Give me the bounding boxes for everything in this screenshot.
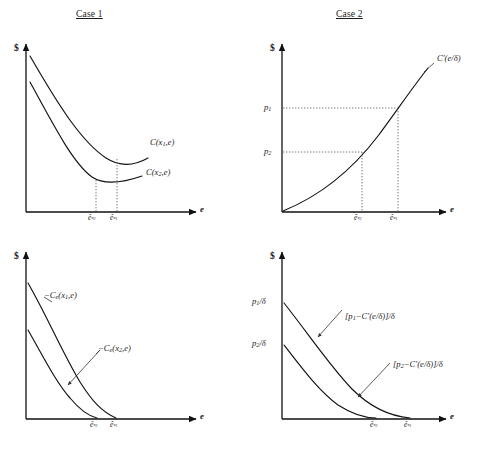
bottom-left-curve-neg-ce-x2	[28, 330, 97, 418]
top-left-y-axis-label: $	[14, 44, 19, 54]
bottom-left-y-axis-label: $	[14, 252, 19, 262]
top-right-value-p1: p1	[264, 103, 271, 113]
top-left-tick-x2: êx2	[88, 214, 96, 222]
bottom-right-y-axis-label: $	[270, 252, 275, 262]
top-left-curve-c-x2	[30, 82, 142, 182]
panel-title-case-2: Case 2	[336, 10, 363, 20]
top-left-tick-x1: êx1	[110, 214, 118, 222]
bottom-left-tick-x1: êx1	[110, 421, 118, 429]
figure-vector-layer	[0, 0, 490, 450]
bottom-left-curve-label-x2: −Ce(x2,e)	[98, 344, 131, 354]
figure-container: Case 1 $ e C(x1,e) C(x2,e) êx2 êx1 Case …	[0, 0, 490, 450]
top-right-curve-cprime	[283, 68, 428, 211]
top-right-tick-x1: êx1	[390, 214, 398, 222]
panel-top-left	[26, 44, 196, 212]
panel-bottom-left	[26, 252, 196, 419]
panel-bottom-right	[282, 252, 446, 419]
panel-title-case-1: Case 1	[76, 10, 103, 20]
top-right-curve-label-cprime: C′(e/δ)	[437, 54, 461, 63]
top-left-x-axis-label: e	[200, 205, 204, 214]
top-left-curve-label-c-x2: C(x2,e)	[146, 168, 170, 178]
top-right-cprime-leader	[424, 63, 434, 72]
top-right-tick-x2: êx2	[354, 214, 362, 222]
bottom-right-arrow-to-p1-curve	[318, 310, 342, 337]
top-left-curve-c-x1	[30, 56, 148, 164]
bottom-left-arrow-to-x2-curve	[68, 350, 100, 385]
bottom-right-x-axis-label: e	[450, 412, 454, 421]
panel-top-right	[282, 44, 446, 212]
bottom-right-value-p2-delta: p2/δ	[252, 339, 266, 349]
bottom-right-value-p1-delta: p1/δ	[252, 297, 266, 307]
bottom-right-curve-label-p1: [p1−C′(e/δ)]/δ	[345, 312, 395, 322]
top-left-curve-label-c-x1: C(x1,e)	[150, 138, 174, 148]
top-right-value-p2: p2	[264, 147, 271, 157]
bottom-right-curve-label-p2: [p2−C′(e/δ)]/δ	[393, 360, 443, 370]
bottom-left-x-axis-label: e	[200, 412, 204, 421]
bottom-right-tick-x1: êx1	[404, 421, 412, 429]
top-right-y-axis-label: $	[270, 44, 275, 54]
bottom-right-arrow-to-p2-curve	[358, 363, 390, 397]
bottom-left-curve-label-x1: −Ce(x1,e)	[44, 291, 77, 301]
bottom-right-tick-x2: êx2	[370, 421, 378, 429]
top-right-x-axis-label: e	[450, 205, 454, 214]
bottom-right-curve-p2	[284, 345, 376, 418]
bottom-left-tick-x2: êx2	[90, 421, 98, 429]
